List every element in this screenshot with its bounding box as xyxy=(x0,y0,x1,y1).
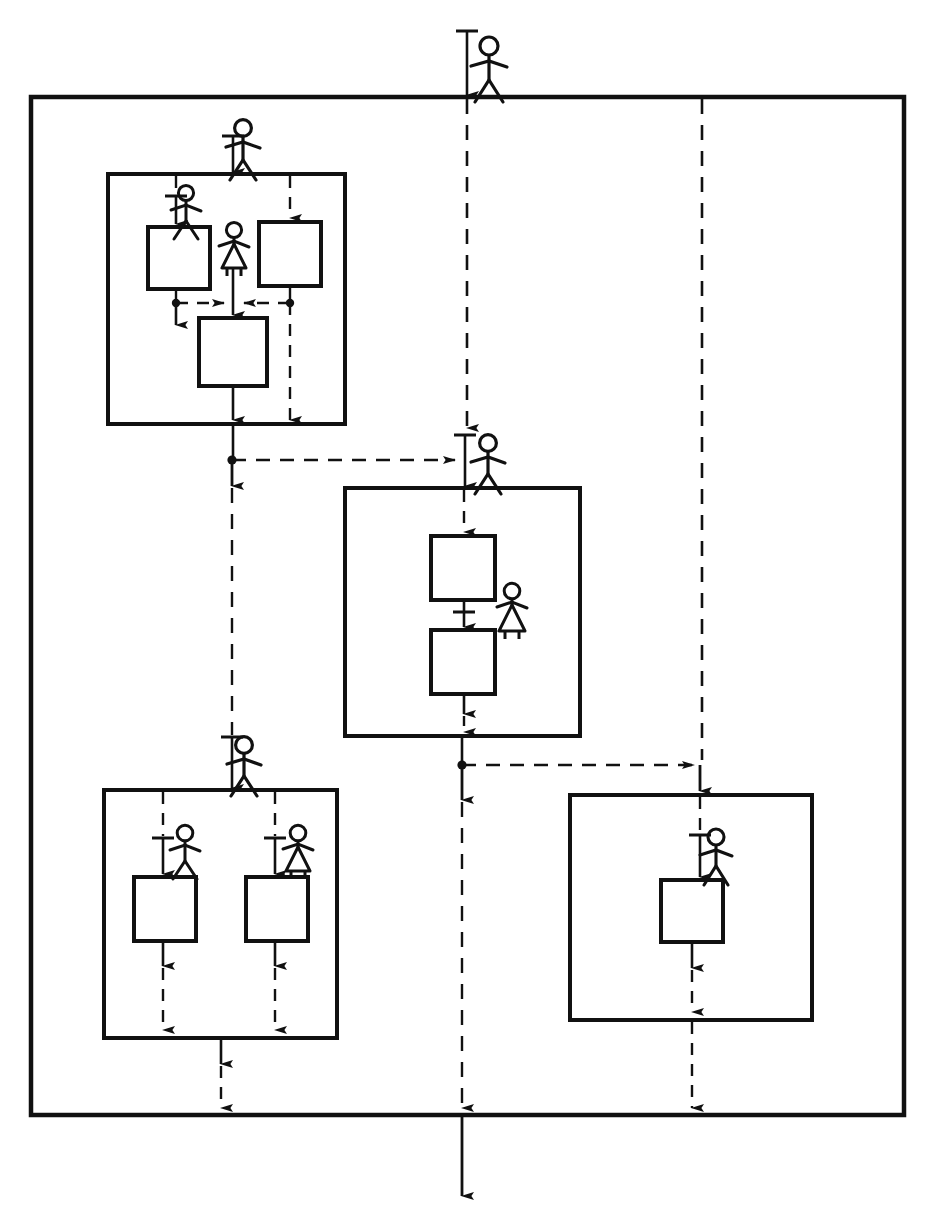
process-box-middle-a xyxy=(431,536,495,600)
diagram-page xyxy=(0,0,929,1227)
actor-male-top-left-group xyxy=(226,120,260,180)
process-box-bottom-left-a xyxy=(134,877,196,941)
flow-entry-bottom-left-a xyxy=(152,838,174,874)
process-box-middle-b xyxy=(431,630,495,694)
flow-system-entry xyxy=(456,31,478,95)
actor-male-bottom-left-a xyxy=(170,825,200,879)
flow-entry-bottom-left-b xyxy=(264,838,286,874)
actor-female-top-left-merge xyxy=(219,222,249,276)
process-box-top-left-c xyxy=(199,318,267,386)
process-flow-diagram xyxy=(0,0,929,1227)
flow-middle-a-to-b xyxy=(453,600,475,627)
process-box-top-left-a xyxy=(148,227,210,289)
flow-top-left-to-middle xyxy=(227,455,455,464)
actor-female-middle-process xyxy=(497,583,527,639)
actor-male-middle-group xyxy=(471,435,505,494)
process-box-bottom-right xyxy=(661,880,723,942)
process-box-top-left-b xyxy=(259,222,321,286)
actor-male-system-entry xyxy=(471,37,507,102)
actor-male-bottom-right xyxy=(700,829,732,885)
actor-female-bottom-left-b xyxy=(283,825,313,878)
flow-middle-to-bottom-right xyxy=(457,760,694,769)
process-box-bottom-left-b xyxy=(246,877,308,941)
